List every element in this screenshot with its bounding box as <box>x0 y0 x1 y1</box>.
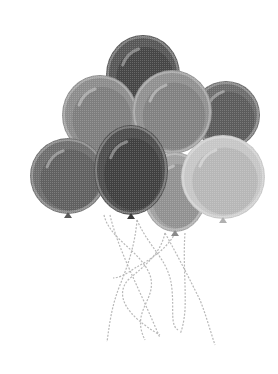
balloon-bunch-illustration <box>0 0 278 374</box>
balloon-strings <box>104 215 215 345</box>
balloons-group <box>30 35 265 236</box>
